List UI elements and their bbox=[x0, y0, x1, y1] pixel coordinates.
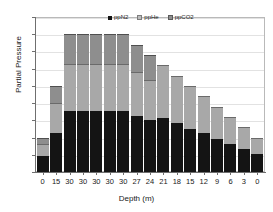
legend-swatch-ppco2 bbox=[168, 15, 173, 20]
bar-segment-ppn2 bbox=[251, 154, 263, 172]
legend-swatch-ppn2 bbox=[108, 16, 112, 20]
bar-segment-pphe bbox=[131, 72, 143, 116]
bar-segment-pphe bbox=[224, 117, 236, 144]
x-tick-mark bbox=[150, 172, 151, 175]
bar-segment-pphe bbox=[251, 138, 263, 155]
x-tick-label: 0 bbox=[246, 177, 268, 186]
bar-segment-ppn2 bbox=[37, 156, 49, 172]
bar-column bbox=[64, 34, 76, 172]
x-tick-mark bbox=[137, 172, 138, 175]
bar-segment-ppn2 bbox=[238, 149, 250, 172]
bar-column bbox=[251, 138, 263, 172]
bar-segment-ppn2 bbox=[131, 116, 143, 172]
y-tick-mark bbox=[32, 138, 35, 139]
x-tick-mark bbox=[257, 172, 258, 175]
x-tick-mark bbox=[230, 172, 231, 175]
bar-column bbox=[184, 86, 196, 172]
x-tick-mark bbox=[43, 172, 44, 175]
x-axis-title: Depth (m) bbox=[0, 194, 273, 203]
legend-item-ppco2: ppCO2 bbox=[168, 14, 194, 21]
bar-segment-pphe bbox=[64, 64, 76, 111]
bar-column bbox=[104, 34, 116, 172]
x-tick-mark bbox=[56, 172, 57, 175]
bar-segment-pphe bbox=[104, 64, 116, 111]
bar-segment-ppn2 bbox=[117, 111, 129, 172]
bar-segment-pphe bbox=[184, 86, 196, 129]
bar-column bbox=[198, 96, 210, 172]
x-tick-mark bbox=[96, 172, 97, 175]
legend-swatch-pphe bbox=[137, 15, 142, 20]
y-tick-mark bbox=[32, 17, 35, 18]
bar-segment-ppco2 bbox=[90, 34, 102, 63]
x-tick-mark bbox=[190, 172, 191, 175]
x-tick-mark bbox=[123, 172, 124, 175]
bar-segment-pphe bbox=[50, 103, 62, 133]
bar-segment-ppn2 bbox=[90, 111, 102, 172]
y-tick-mark bbox=[32, 34, 35, 35]
bar-column bbox=[144, 55, 156, 172]
x-tick-mark bbox=[83, 172, 84, 175]
bar-segment-ppn2 bbox=[171, 123, 183, 172]
bar-segment-pphe bbox=[37, 144, 49, 156]
bar-segment-ppn2 bbox=[157, 118, 169, 172]
bar-segment-ppn2 bbox=[198, 133, 210, 172]
bar-column bbox=[77, 34, 89, 172]
bar-column bbox=[157, 65, 169, 172]
y-axis-title: Partial Pressure bbox=[14, 10, 23, 120]
bar-segment-pphe bbox=[117, 64, 129, 111]
bar-column bbox=[211, 107, 223, 172]
y-tick-mark bbox=[32, 69, 35, 70]
bar-column bbox=[90, 34, 102, 172]
x-tick-mark bbox=[204, 172, 205, 175]
x-tick-mark bbox=[70, 172, 71, 175]
bars-layer bbox=[36, 18, 264, 172]
y-tick-mark bbox=[32, 103, 35, 104]
bar-column bbox=[238, 127, 250, 172]
x-tick-mark bbox=[177, 172, 178, 175]
chart-legend: ppN2 ppHe ppCO2 bbox=[108, 14, 194, 21]
bar-segment-pphe bbox=[198, 96, 210, 133]
bar-segment-pphe bbox=[157, 65, 169, 118]
bar-column bbox=[224, 117, 236, 172]
bar-column bbox=[131, 45, 143, 172]
legend-label-ppn2: ppN2 bbox=[114, 14, 128, 21]
bar-column bbox=[117, 34, 129, 172]
bar-segment-ppco2 bbox=[77, 34, 89, 63]
bar-segment-ppn2 bbox=[144, 120, 156, 172]
bar-segment-ppco2 bbox=[50, 86, 62, 103]
x-tick-mark bbox=[244, 172, 245, 175]
legend-label-ppco2: ppCO2 bbox=[175, 14, 194, 21]
x-tick-mark bbox=[110, 172, 111, 175]
legend-label-pphe: ppHe bbox=[144, 14, 158, 21]
x-tick-mark bbox=[217, 172, 218, 175]
y-tick-mark bbox=[32, 120, 35, 121]
bar-segment-ppn2 bbox=[211, 139, 223, 172]
bar-column bbox=[37, 138, 49, 172]
bar-segment-pphe bbox=[171, 76, 183, 124]
bar-segment-pphe bbox=[77, 64, 89, 111]
legend-item-pphe: ppHe bbox=[137, 14, 158, 21]
bar-segment-ppn2 bbox=[50, 133, 62, 172]
bar-segment-ppco2 bbox=[117, 34, 129, 63]
bar-segment-pphe bbox=[144, 80, 156, 120]
y-tick-mark bbox=[32, 155, 35, 156]
bar-column bbox=[171, 76, 183, 172]
x-tick-mark bbox=[163, 172, 164, 175]
bar-segment-ppn2 bbox=[64, 111, 76, 172]
bar-column bbox=[50, 86, 62, 172]
bar-segment-pphe bbox=[238, 127, 250, 149]
y-tick-mark bbox=[32, 86, 35, 87]
bar-segment-ppn2 bbox=[77, 111, 89, 172]
legend-item-ppn2: ppN2 bbox=[108, 14, 128, 21]
bar-segment-pphe bbox=[90, 64, 102, 111]
y-tick-mark bbox=[32, 51, 35, 52]
bar-segment-pphe bbox=[211, 107, 223, 139]
y-tick-mark bbox=[32, 172, 35, 173]
bar-segment-ppco2 bbox=[131, 45, 143, 72]
bar-segment-ppn2 bbox=[104, 111, 116, 172]
partial-pressure-chart: Partial Pressure ppN2 ppHe ppCO2 Depth (… bbox=[0, 0, 273, 212]
bar-segment-ppn2 bbox=[224, 144, 236, 172]
bar-segment-ppco2 bbox=[144, 55, 156, 80]
bar-segment-ppco2 bbox=[104, 34, 116, 63]
bar-segment-ppn2 bbox=[184, 129, 196, 172]
